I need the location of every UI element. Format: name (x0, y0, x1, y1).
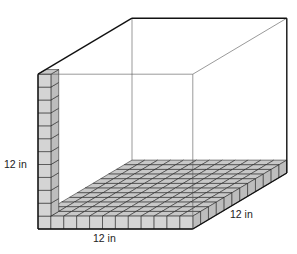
height-label: 12 in (4, 158, 27, 170)
width-label: 12 in (93, 232, 116, 244)
depth-label: 12 in (230, 208, 253, 220)
box-diagram: 12 in 12 in 12 in (0, 0, 297, 254)
